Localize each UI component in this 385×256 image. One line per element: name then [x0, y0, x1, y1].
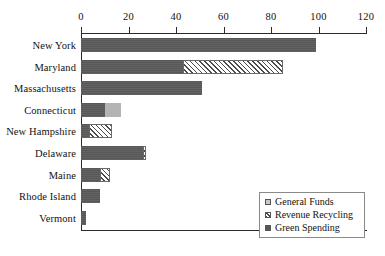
bar-row: [81, 60, 366, 74]
bar-segment-green: [81, 38, 316, 52]
bar-row: [81, 124, 366, 138]
bar-row: [81, 146, 366, 160]
legend-item-green-spending: Green Spending: [264, 222, 360, 234]
legend-label-revenue-recycling: Revenue Recycling: [275, 210, 353, 220]
bar-segment-green: [81, 168, 100, 182]
legend-item-revenue-recycling: Revenue Recycling: [264, 209, 360, 221]
bar-segment-recycle: [100, 168, 110, 182]
x-tick: [129, 27, 130, 34]
x-tick: [319, 27, 320, 34]
category-label: Rhode Island: [19, 191, 76, 202]
category-label: Maine: [49, 169, 76, 180]
x-tick: [366, 27, 367, 34]
x-tick-label: 60: [218, 11, 229, 22]
chart-legend: General Funds Revenue Recycling Green Sp…: [259, 192, 365, 238]
bar-segment-recycle: [89, 124, 112, 138]
bar-segment-green: [81, 103, 105, 117]
x-tick-label: 40: [171, 11, 182, 22]
bar-segment-green: [81, 60, 183, 74]
category-label: Massachusetts: [14, 83, 76, 94]
bar-row: [81, 103, 366, 117]
x-tick-label: 100: [310, 11, 326, 22]
legend-label-general-funds: General Funds: [275, 197, 334, 207]
bar-segment-green: [81, 211, 86, 225]
bar-row: [81, 168, 366, 182]
x-tick-label: 0: [78, 11, 83, 22]
category-label: Connecticut: [24, 104, 76, 115]
bar-segment-green: [81, 124, 89, 138]
bar-chart: 020406080100120 New YorkMarylandMassachu…: [0, 0, 385, 256]
x-tick-label: 120: [358, 11, 374, 22]
category-label: Vermont: [39, 212, 76, 223]
bar-segment-green: [81, 146, 143, 160]
category-label: Maryland: [34, 61, 76, 72]
bar-segment-green: [81, 81, 202, 95]
x-tick: [176, 27, 177, 34]
category-label: New York: [33, 40, 76, 51]
legend-label-green-spending: Green Spending: [275, 223, 340, 233]
x-tick: [224, 27, 225, 34]
legend-swatch-green-spending-icon: [265, 225, 271, 231]
x-tick: [271, 27, 272, 34]
legend-item-general-funds: General Funds: [264, 196, 360, 208]
x-tick-label: 20: [123, 11, 134, 22]
category-label: Delaware: [35, 148, 76, 159]
bar-row: [81, 38, 366, 52]
x-tick: [81, 27, 82, 34]
x-tick-label: 80: [266, 11, 277, 22]
bar-segment-funds: [105, 103, 122, 117]
legend-swatch-general-funds-icon: [265, 199, 271, 205]
bar-segment-recycle: [143, 146, 147, 160]
bar-row: [81, 81, 366, 95]
category-label: New Hampshire: [6, 126, 76, 137]
bar-segment-recycle: [183, 60, 283, 74]
legend-swatch-revenue-recycling-icon: [265, 212, 271, 218]
bar-segment-green: [81, 189, 100, 203]
